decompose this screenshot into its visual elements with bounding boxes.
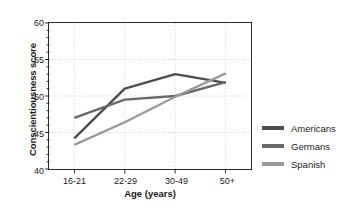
x-tick-label: 16-21 (63, 176, 86, 186)
legend-label: Americans (291, 123, 336, 134)
y-tick-label: 55 (34, 55, 44, 65)
y-tick-label: 45 (34, 129, 44, 139)
legend-color-swatch (262, 144, 284, 147)
line-chart-figure: Conscientiousness score 4045505560 16-21… (0, 0, 359, 208)
plot-area: 4045505560 16-2122-2930-4950+ (48, 22, 252, 170)
x-tick-label: 30-49 (165, 176, 188, 186)
legend-label: Germans (291, 141, 330, 152)
x-tick-label: 50+ (220, 176, 235, 186)
tick-marks (49, 23, 251, 169)
x-tick-label: 22-29 (114, 176, 137, 186)
legend-color-swatch (262, 162, 284, 165)
chart-legend: AmericansGermansSpanish (262, 119, 336, 173)
legend-item[interactable]: Germans (262, 137, 336, 155)
legend-label: Spanish (291, 159, 325, 170)
y-tick-label: 60 (34, 18, 44, 28)
legend-color-swatch (262, 126, 284, 129)
legend-item[interactable]: Americans (262, 119, 336, 137)
y-tick-label: 50 (34, 92, 44, 102)
x-axis-title: Age (years) (48, 188, 252, 199)
y-tick-label: 40 (34, 166, 44, 176)
legend-item[interactable]: Spanish (262, 155, 336, 173)
